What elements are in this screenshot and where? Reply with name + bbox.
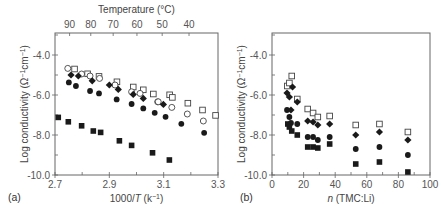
data-point-square-filled	[150, 150, 156, 156]
plot-area	[55, 33, 218, 175]
data-point-circle-filled	[377, 144, 383, 150]
data-point-circle-open	[184, 111, 190, 117]
data-point-square-open	[315, 114, 321, 120]
data-point-square-open	[327, 113, 333, 119]
top-tick-label: 60	[131, 19, 143, 30]
x-axis-label: 1000/T (k−1)	[110, 193, 164, 205]
y-tick-label: -4.0	[250, 50, 268, 61]
panel-b-label: (b)	[240, 191, 253, 203]
data-point-circle-filled	[353, 146, 359, 152]
series-open-square	[285, 73, 411, 135]
data-point-square-filled	[353, 161, 359, 167]
data-point-circle-open	[97, 75, 103, 81]
x-tick-label: 3.3	[211, 179, 225, 190]
y-tick-label: -6.0	[250, 90, 268, 101]
y-axis-label: Log conductivity (Ω−1cm−1)	[236, 45, 248, 163]
data-point-square-open	[305, 106, 311, 112]
data-point-circle-filled	[405, 152, 411, 158]
x-tick-label: 2.9	[102, 179, 116, 190]
figure: -4.0-6.0-8.0-10.02.72.93.13.3Log conduct…	[0, 0, 445, 213]
data-point-square-filled	[377, 159, 383, 165]
data-point-square-open	[200, 107, 206, 113]
x-tick-label: 0	[269, 179, 275, 190]
data-point-circle-open	[65, 65, 71, 71]
data-point-circle-filled	[66, 80, 72, 86]
data-point-square-filled	[91, 128, 97, 134]
data-point-diamond-filled	[352, 131, 359, 138]
data-point-diamond-filled	[376, 128, 383, 135]
y-tick-label: -4.0	[33, 50, 51, 61]
x-tick-label: 3.1	[157, 179, 171, 190]
data-point-circle-filled	[96, 91, 102, 97]
chart-panel-a: -4.0-6.0-8.0-10.02.72.93.13.3Log conduct…	[19, 4, 226, 204]
data-point-square-open	[170, 95, 176, 101]
data-point-square-open	[353, 122, 359, 128]
data-point-circle-open	[169, 104, 175, 110]
data-point-square-filled	[117, 138, 123, 144]
data-point-square-filled	[405, 169, 411, 175]
top-tick-label: 50	[157, 19, 169, 30]
top-tick-label: 40	[183, 19, 195, 30]
data-point-circle-filled	[327, 134, 333, 140]
top-tick-label: 90	[64, 19, 76, 30]
x-tick-label: 80	[393, 179, 405, 190]
x-tick-label: 20	[298, 179, 310, 190]
data-point-square-open	[213, 113, 219, 119]
data-point-square-filled	[289, 128, 295, 134]
x-tick-label: 60	[361, 179, 373, 190]
data-point-square-filled	[98, 130, 104, 136]
series-filled-circle	[66, 80, 207, 136]
x-tick-label: 2.7	[48, 179, 62, 190]
y-tick-label: -10.0	[244, 170, 267, 181]
data-point-square-open	[72, 66, 78, 72]
data-point-square-filled	[315, 145, 321, 151]
y-tick-label: -10.0	[27, 170, 50, 181]
data-point-diamond-filled	[67, 71, 74, 78]
series-filled-square	[285, 121, 411, 175]
x-tick-label: 100	[422, 179, 439, 190]
data-point-square-open	[151, 91, 157, 97]
data-point-circle-filled	[315, 137, 321, 143]
y-tick-label: -6.0	[33, 90, 51, 101]
data-point-circle-filled	[114, 97, 120, 103]
data-point-circle-filled	[286, 114, 292, 120]
x-axis-label: n (TMC:Li)	[327, 193, 374, 204]
data-point-circle-filled	[284, 107, 290, 113]
data-point-circle-filled	[305, 134, 311, 140]
y-tick-label: -8.0	[250, 130, 268, 141]
data-point-diamond-filled	[304, 117, 311, 124]
series-filled-square	[55, 115, 172, 163]
y-tick-label: -8.0	[33, 130, 51, 141]
data-point-circle-filled	[73, 83, 79, 89]
data-point-diamond-filled	[106, 81, 113, 88]
data-point-square-filled	[294, 132, 300, 138]
data-point-square-filled	[327, 141, 333, 147]
data-point-circle-filled	[178, 121, 184, 127]
data-point-square-open	[289, 73, 295, 79]
data-point-square-filled	[167, 157, 173, 163]
data-point-circle-filled	[201, 130, 207, 136]
data-point-circle-filled	[87, 88, 93, 94]
data-point-circle-open	[200, 118, 206, 124]
top-axis-label: Temperature (°C)	[98, 4, 175, 15]
data-point-circle-open	[137, 90, 143, 96]
data-point-circle-filled	[152, 110, 158, 116]
data-point-circle-filled	[294, 121, 300, 127]
panel-a-label: (a)	[8, 191, 21, 203]
y-axis-label: Log conductivity (Ω−1cm−1)	[19, 45, 31, 163]
series-filled-diamond	[283, 83, 411, 143]
data-point-square-filled	[305, 144, 311, 150]
data-point-diamond-filled	[404, 136, 411, 143]
data-point-circle-filled	[163, 114, 169, 120]
data-point-square-filled	[79, 123, 85, 129]
data-point-square-open	[405, 129, 411, 135]
data-point-square-filled	[129, 143, 135, 149]
data-point-circle-filled	[140, 106, 146, 112]
data-point-square-filled	[66, 119, 72, 125]
data-point-square-open	[185, 100, 191, 106]
data-point-circle-filled	[129, 101, 135, 107]
data-point-diamond-filled	[326, 120, 333, 127]
data-point-square-filled	[55, 115, 61, 121]
top-tick-label: 70	[108, 19, 120, 30]
top-tick-label: 80	[85, 19, 97, 30]
